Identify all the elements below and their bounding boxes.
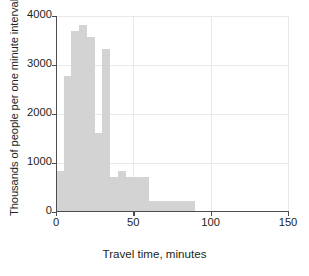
x-axis-tick-label: 0: [36, 216, 76, 228]
histogram-bar: [71, 31, 79, 212]
y-axis-tick-mark: [52, 16, 56, 17]
x-axis-tick-labels: 050100150: [0, 216, 309, 236]
y-axis-tick-mark: [52, 163, 56, 164]
y-axis-tick-label: 4000: [18, 8, 52, 20]
x-axis-tick-mark: [288, 212, 289, 216]
y-axis-tick-label: 0: [18, 204, 52, 216]
histogram-bar: [95, 133, 103, 212]
histogram-figure: Thousands of people per one minute inter…: [0, 0, 309, 276]
histogram-bar: [126, 177, 149, 212]
x-axis-tick-label: 50: [113, 216, 153, 228]
gridline-vertical: [288, 16, 289, 212]
histogram-bar: [64, 76, 72, 212]
histogram-bar: [79, 25, 87, 212]
histogram-bar: [87, 37, 95, 212]
gridline-vertical: [211, 16, 212, 212]
x-axis-tick-label: 150: [268, 216, 308, 228]
x-axis-title: Travel time, minutes: [0, 247, 309, 260]
x-axis-tick-mark: [133, 212, 134, 216]
x-axis-tick-mark: [56, 212, 57, 216]
histogram-bar: [118, 171, 126, 212]
gridline-horizontal: [56, 16, 288, 17]
x-axis-tick-mark: [211, 212, 212, 216]
histogram-bar: [110, 177, 118, 212]
y-axis-tick-label: 1000: [18, 155, 52, 167]
y-axis-tick-mark: [52, 114, 56, 115]
x-axis-line: [56, 211, 289, 212]
y-axis-tick-label: 2000: [18, 106, 52, 118]
y-axis-line: [56, 16, 57, 212]
x-axis-tick-label: 100: [191, 216, 231, 228]
plot-area: [56, 16, 288, 212]
histogram-bar: [102, 49, 110, 212]
y-axis-tick-label: 3000: [18, 57, 52, 69]
y-axis-tick-mark: [52, 65, 56, 66]
